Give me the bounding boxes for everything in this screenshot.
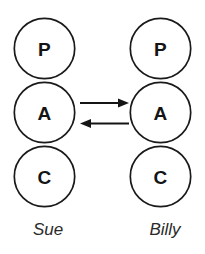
person-column-billy: P A C Billy xyxy=(130,18,190,238)
billy-child-letter: C xyxy=(154,167,168,188)
sue-child-letter: C xyxy=(38,167,52,188)
billy-parent-letter: P xyxy=(154,39,167,60)
ego-state-billy-adult[interactable]: A xyxy=(130,82,190,142)
response-arrow-head xyxy=(80,119,91,128)
ego-state-sue-child[interactable]: C xyxy=(14,146,74,206)
ego-state-sue-adult[interactable]: A xyxy=(14,82,74,142)
diagram-canvas: P A C Sue P A C xyxy=(0,0,205,254)
ego-state-sue-parent[interactable]: P xyxy=(14,18,74,78)
ego-state-billy-parent[interactable]: P xyxy=(130,18,190,78)
transactional-analysis-diagram: P A C Sue P A C xyxy=(0,0,205,254)
stimulus-arrow-head xyxy=(118,99,129,108)
person-label-sue: Sue xyxy=(33,220,63,239)
sue-adult-letter: A xyxy=(38,103,52,124)
person-label-billy: Billy xyxy=(149,220,182,239)
person-column-sue: P A C Sue xyxy=(14,18,74,238)
sue-parent-letter: P xyxy=(38,39,51,60)
transaction-arrow-response[interactable] xyxy=(80,119,129,128)
transaction-arrow-stimulus[interactable] xyxy=(80,99,129,108)
ego-state-billy-child[interactable]: C xyxy=(130,146,190,206)
billy-adult-letter: A xyxy=(154,103,168,124)
